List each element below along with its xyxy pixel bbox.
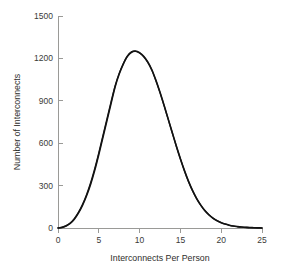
x-tick-label-15: 15: [176, 235, 186, 245]
x-axis-title: Interconnects Per Person: [110, 253, 209, 263]
x-tick-label-10: 10: [135, 235, 145, 245]
chart-figure: 0 300 600 900 1200 1500 0 5 10 15 20 25 …: [0, 0, 284, 268]
distribution-line-chart: 0 300 600 900 1200 1500 0 5 10 15 20 25 …: [0, 0, 284, 268]
x-tick-label-5: 5: [96, 235, 101, 245]
x-tick-label-0: 0: [56, 235, 61, 245]
y-axis-title: Number of Interconnects: [12, 73, 22, 170]
y-tick-label-600: 600: [39, 138, 53, 148]
x-tick-label-20: 20: [216, 235, 226, 245]
y-tick-label-300: 300: [39, 181, 53, 191]
y-tick-label-0: 0: [48, 223, 53, 233]
x-tick-label-25: 25: [257, 235, 267, 245]
y-tick-label-900: 900: [39, 96, 53, 106]
y-tick-label-1200: 1200: [34, 53, 53, 63]
y-tick-label-1500: 1500: [34, 11, 53, 21]
